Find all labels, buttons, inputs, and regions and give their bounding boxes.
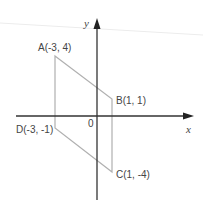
x-axis-arrow-icon (183, 113, 194, 120)
point-d-label: D(-3, -1) (16, 124, 53, 135)
y-axis-arrow-icon (94, 18, 101, 29)
parallelogram-abcd (55, 56, 112, 172)
point-c-label: C(1, -4) (116, 169, 150, 180)
point-b-label: B(1, 1) (116, 95, 146, 106)
coordinate-plane: y x 0 A(-3, 4) B(1, 1) C(1, -4) D(-3, -1… (0, 0, 203, 208)
x-axis-label: x (185, 123, 191, 135)
point-a-label: A(-3, 4) (38, 42, 71, 53)
y-axis-label: y (83, 17, 89, 29)
scan-line (0, 23, 203, 35)
origin-label: 0 (88, 118, 94, 129)
